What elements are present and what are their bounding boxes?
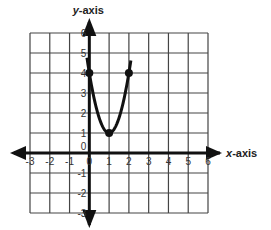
y-tick-label: 2: [81, 108, 87, 119]
x-tick-label: 5: [185, 156, 191, 167]
y-tick-label: 6: [81, 28, 87, 39]
x-axis-arrow-left-icon: [10, 146, 26, 160]
x-tick-label: -2: [45, 156, 54, 167]
parabola-graph: -3-2-10123456-3-2-11234560y-axisx-axis: [0, 0, 271, 230]
y-tick-label: 3: [81, 88, 87, 99]
x-axis-label: x-axis: [225, 147, 257, 159]
x-tick-label: -1: [65, 156, 74, 167]
x-tick-label: -3: [26, 156, 35, 167]
y-tick-label: -1: [77, 168, 86, 179]
data-point: [125, 69, 133, 77]
x-tick-label: 0: [87, 156, 93, 167]
y-tick-label: 5: [81, 48, 87, 59]
x-tick-label: 4: [166, 156, 172, 167]
x-tick-label: 3: [146, 156, 152, 167]
x-tick-label: 1: [106, 156, 112, 167]
x-tick-label: 2: [126, 156, 132, 167]
y-tick-label: 1: [81, 128, 87, 139]
y-tick-label: -3: [77, 208, 86, 219]
x-tick-label: 6: [205, 156, 211, 167]
data-point: [85, 69, 93, 77]
y-tick-label: -2: [77, 188, 86, 199]
origin-label: 0: [81, 141, 87, 152]
y-axis-label: y-axis: [72, 4, 104, 16]
data-point: [105, 129, 113, 137]
